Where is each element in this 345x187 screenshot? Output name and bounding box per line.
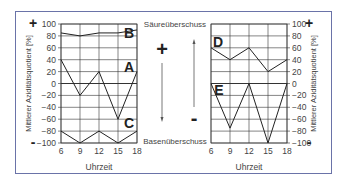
x-axis-label: Uhrzeit [86, 162, 114, 172]
y-tick-label: −20 [42, 90, 57, 100]
x-tick-label: 15 [263, 146, 273, 156]
y-axis-label: Mittlerer Aziditätsquotient [%] [24, 35, 33, 132]
acid-excess-label: Säureüberschuss [144, 20, 206, 29]
base-excess-label: Basenüberschuss [143, 137, 207, 146]
series-label-C: C [124, 115, 134, 131]
y-tick-label: −40 [42, 102, 57, 112]
y-tick-label: 20 [47, 67, 57, 77]
y-tick-label: 20 [292, 67, 302, 77]
plus-sign: + [156, 38, 168, 60]
series-label-E: E [214, 82, 223, 98]
x-tick-label: 6 [209, 146, 214, 156]
y-tick-label: 40 [47, 55, 57, 65]
series-label-B: B [124, 25, 134, 41]
x-tick-label: 9 [228, 146, 233, 156]
y-tick-label: −80 [292, 126, 307, 136]
y-tick-label: −80 [42, 126, 57, 136]
chart-figure: 100806040200−20−40−60−80−10069121518Uhrz… [0, 0, 345, 187]
y-axis-label: Mittlerer Aziditätsquotient [%] [309, 35, 318, 132]
y-tick-label: 40 [292, 55, 302, 65]
x-tick-label: 12 [244, 146, 254, 156]
y-tick-label: −100 [37, 138, 56, 148]
middle-legend: Säureüberschuss Basenüberschuss + - [143, 20, 207, 146]
y-tick-label: −20 [292, 90, 307, 100]
left-chart: 100806040200−20−40−60−80−10069121518Uhrz… [24, 15, 142, 172]
plus-sign: + [305, 15, 313, 31]
y-tick-label: −60 [42, 114, 57, 124]
x-axis-label: Uhrzeit [236, 162, 264, 172]
x-tick-label: 9 [78, 146, 83, 156]
up-arrowhead-icon [193, 39, 196, 44]
right-chart: 100806040200−20−40−60−80−10069121518Uhrz… [209, 15, 318, 172]
y-tick-label: 60 [47, 43, 57, 53]
down-arrowhead-icon [161, 117, 164, 122]
y-tick-label: 0 [292, 79, 297, 89]
minus-sign: - [31, 134, 36, 150]
x-tick-label: 18 [282, 146, 292, 156]
y-tick-label: 80 [292, 31, 302, 41]
y-tick-label: 100 [42, 19, 56, 29]
x-tick-label: 6 [59, 146, 64, 156]
minus-sign: - [307, 134, 312, 150]
y-tick-label: 80 [47, 31, 57, 41]
x-tick-label: 18 [132, 146, 142, 156]
x-tick-label: 12 [94, 146, 104, 156]
y-tick-label: −40 [292, 102, 307, 112]
series-label-A: A [124, 59, 134, 75]
plus-sign: + [29, 15, 37, 31]
minus-sign: - [191, 107, 198, 129]
x-tick-label: 15 [113, 146, 123, 156]
series-label-D: D [213, 34, 223, 50]
y-tick-label: 0 [51, 79, 56, 89]
y-tick-label: 60 [292, 43, 302, 53]
y-tick-label: −60 [292, 114, 307, 124]
